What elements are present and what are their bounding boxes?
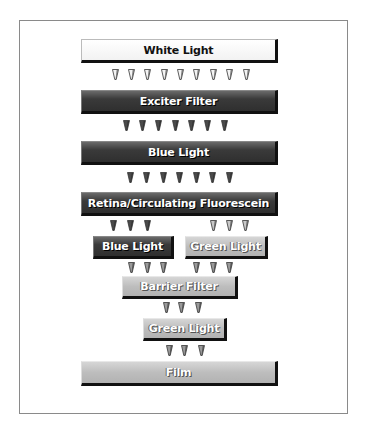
down-arrow-icon	[123, 120, 130, 131]
node-label: Green Light	[149, 322, 220, 335]
down-arrow-icon	[160, 172, 167, 183]
down-arrow-icon	[226, 220, 233, 231]
down-arrow-icon	[210, 262, 217, 273]
node-green-light-emitted: Green Light	[185, 236, 268, 259]
node-label: Blue Light	[102, 240, 163, 253]
down-arrow-icon	[198, 345, 205, 356]
node-blue-light-reflected: Blue Light	[93, 236, 174, 259]
down-arrow-icon	[193, 69, 200, 80]
down-arrow-icon	[243, 69, 250, 80]
down-arrow-icon	[193, 172, 200, 183]
node-label: Barrier Filter	[140, 280, 218, 293]
down-arrow-icon	[160, 262, 167, 273]
down-arrow-icon	[177, 69, 184, 80]
down-arrow-icon	[161, 69, 168, 80]
down-arrow-icon	[193, 262, 200, 273]
down-arrow-icon	[210, 220, 217, 231]
down-arrow-icon	[242, 220, 249, 231]
down-arrow-icon	[226, 172, 233, 183]
down-arrow-icon	[181, 345, 188, 356]
node-label: Blue Light	[148, 146, 209, 159]
down-arrow-icon	[195, 302, 202, 313]
down-arrow-icon	[178, 302, 185, 313]
down-arrow-icon	[128, 69, 135, 80]
down-arrow-icon	[128, 262, 135, 273]
down-arrow-icon	[209, 172, 216, 183]
down-arrow-icon	[110, 220, 117, 231]
down-arrow-icon	[204, 120, 211, 131]
down-arrow-icon	[226, 69, 233, 80]
down-arrow-icon	[210, 69, 217, 80]
down-arrow-icon	[144, 262, 151, 273]
node-exciter-filter: Exciter Filter	[81, 90, 278, 114]
down-arrow-icon	[143, 172, 150, 183]
node-film: Film	[81, 361, 278, 386]
down-arrow-icon	[172, 120, 179, 131]
down-arrow-icon	[127, 220, 134, 231]
node-label: Green Light	[190, 240, 261, 253]
down-arrow-icon	[139, 120, 146, 131]
node-green-light-filtered: Green Light	[143, 318, 227, 341]
down-arrow-icon	[127, 172, 134, 183]
node-barrier-filter: Barrier Filter	[122, 276, 238, 299]
node-white-light: White Light	[81, 39, 278, 63]
down-arrow-icon	[176, 172, 183, 183]
node-label: White Light	[144, 44, 214, 57]
node-retina-circulating-fluorescein: Retina/Circulating Fluorescein	[81, 192, 278, 216]
down-arrow-icon	[166, 345, 173, 356]
down-arrow-icon	[221, 120, 228, 131]
node-label: Exciter Filter	[140, 95, 217, 108]
down-arrow-icon	[144, 69, 151, 80]
node-label: Retina/Circulating Fluorescein	[88, 197, 269, 210]
node-label: Film	[166, 366, 192, 379]
down-arrow-icon	[188, 120, 195, 131]
down-arrow-icon	[144, 220, 151, 231]
down-arrow-icon	[226, 262, 233, 273]
down-arrow-icon	[112, 69, 119, 80]
node-blue-light: Blue Light	[81, 141, 278, 165]
down-arrow-icon	[155, 120, 162, 131]
down-arrow-icon	[163, 302, 170, 313]
